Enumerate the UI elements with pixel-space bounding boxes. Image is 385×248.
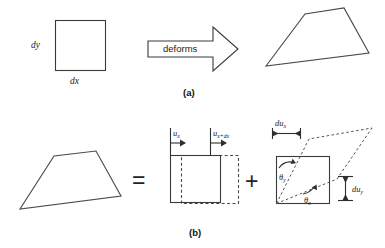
dim-arrow-top-right xyxy=(295,131,301,137)
dim-arrow-right-bottom xyxy=(343,194,349,200)
plus-symbol: + xyxy=(245,168,258,194)
dim-arrow-top-left xyxy=(273,131,279,137)
undeformed-square xyxy=(56,21,106,71)
panel-a-deformed-quadrilateral xyxy=(266,8,369,66)
strain-diagram: θy θx dux duy xyxy=(273,119,373,206)
equals-symbol: = xyxy=(132,167,145,193)
figure-deformation-diagram: dy dx deforms (a) = ux xyxy=(0,0,385,248)
label-duy: duy xyxy=(352,185,363,195)
arrow-head-right xyxy=(221,140,227,147)
angle-arc-theta-y xyxy=(279,162,292,168)
label-dux: dux xyxy=(275,119,286,129)
label-ux: ux xyxy=(173,129,180,139)
displaced-square-dashed xyxy=(182,156,239,204)
panel-b-deformed-quadrilateral xyxy=(20,151,121,209)
panel-b: = ux ux+dx + xyxy=(20,119,372,238)
translation-diagram: ux ux+dx xyxy=(171,128,239,204)
angle-arc-theta-x xyxy=(303,187,314,194)
arrow-head-left xyxy=(180,140,186,147)
deforms-arrow-label: deforms xyxy=(163,43,198,54)
dim-arrow-right-top xyxy=(343,177,349,183)
original-square-solid xyxy=(171,156,221,203)
label-ux-dx: ux+dx xyxy=(213,129,230,139)
panel-a: dy dx deforms (a) xyxy=(31,8,369,98)
label-dy: dy xyxy=(31,40,41,50)
label-theta-y: θy xyxy=(279,173,286,183)
label-theta-x: θx xyxy=(304,196,311,206)
label-dx: dx xyxy=(70,76,80,86)
caption-a: (a) xyxy=(183,87,195,98)
caption-b: (b) xyxy=(189,227,201,238)
